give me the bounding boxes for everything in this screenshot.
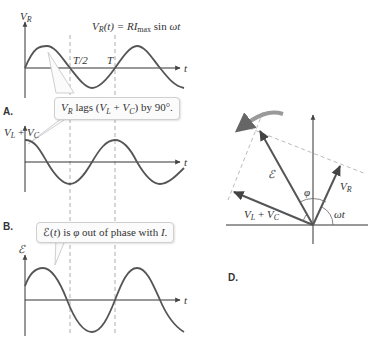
lag-callout-text: VR lags (VL + VC) by 90°.: [61, 101, 173, 113]
panel-c-y-label: ℰ: [18, 243, 26, 255]
vr-equation: VR(t) = RImax sin ωt: [92, 20, 181, 34]
panel-a-label: A.: [3, 106, 13, 117]
vr-sine-curve: [25, 46, 184, 88]
period-guide-lines: [70, 35, 115, 336]
panel-b-t-label: t: [184, 156, 188, 168]
rotation-arrow-icon: [238, 113, 283, 130]
panel-b-label: B.: [3, 221, 13, 232]
tick-half-period: T/2: [73, 54, 88, 66]
emf-phasor-label: ℰ: [268, 168, 276, 180]
vlvc-phasor-label: VL + VC: [244, 208, 280, 222]
panel-d-phasor-diagram: ℰ φ VR VL + VC ωt D.: [226, 112, 368, 283]
panel-c-emf-graph: ℰ t: [18, 243, 188, 336]
dashed-line-top: [249, 128, 366, 174]
panel-b-vlvc-graph: VL + VC t B.: [3, 126, 188, 232]
panel-d-label: D.: [228, 272, 238, 283]
omega-t-arc: [322, 207, 333, 225]
phase-callout: ℰ(t) is φ out of phase with I.: [36, 222, 174, 243]
ac-circuit-phasor-diagram: VR VR(t) = RImax sin ωt T/2 T t A. VL + …: [0, 0, 368, 339]
omega-t-label: ωt: [334, 208, 346, 220]
panel-b-y-label: VL + VC: [4, 126, 40, 140]
phase-callout-text: ℰ(t) is φ out of phase with I.: [43, 226, 167, 238]
tick-period: T: [107, 54, 114, 66]
panel-a-y-label: VR: [20, 10, 32, 24]
phi-label: φ: [304, 186, 310, 198]
lag-callout: VR lags (VL + VC) by 90°.: [54, 97, 180, 120]
vr-phasor-label: VR: [340, 180, 352, 194]
panel-c-t-label: t: [184, 294, 188, 306]
panel-a-t-label: t: [184, 62, 188, 74]
